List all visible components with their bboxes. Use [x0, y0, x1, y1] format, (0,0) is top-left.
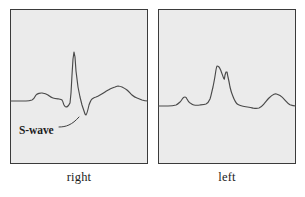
- ecg-figure: S-wave right left: [0, 0, 305, 197]
- caption-left-bundle: left: [158, 170, 296, 185]
- annotation-leader-line-s-wave: [58, 112, 88, 140]
- ecg-trace-left: [158, 9, 296, 164]
- panel-left-bundle: [158, 9, 296, 164]
- ecg-trace-right: [10, 9, 148, 164]
- caption-right-bundle: right: [10, 170, 148, 185]
- waveform-path-left: [158, 66, 296, 108]
- leader-curve: [59, 117, 79, 127]
- waveform-path-right: [10, 52, 148, 115]
- annotation-label-s-wave: S-wave: [19, 124, 54, 136]
- panel-right-bundle: [10, 9, 148, 164]
